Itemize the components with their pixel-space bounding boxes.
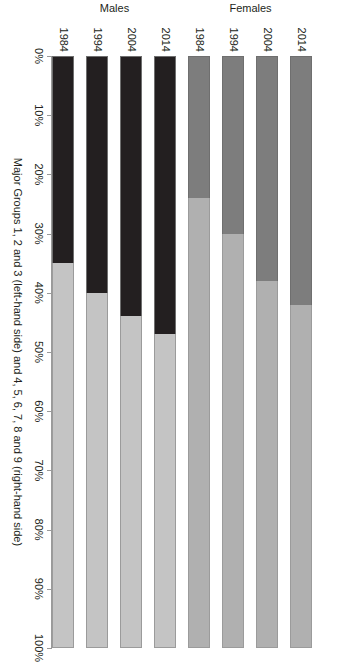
x-axis-tick-label: 90% <box>32 566 45 612</box>
bar-segment-left <box>154 56 176 334</box>
x-axis-tick-label: 20% <box>32 151 45 197</box>
bar-row <box>120 56 142 648</box>
bar-segment-right <box>222 234 244 648</box>
bar-segment-right <box>120 316 142 648</box>
x-axis-tick-label: 10% <box>32 92 45 138</box>
bar-segment-left <box>52 56 74 263</box>
category-label: 2014 <box>295 6 308 52</box>
bar-segment-right <box>86 293 108 648</box>
x-axis-tick-label: 0% <box>32 33 45 79</box>
bar-segment-left <box>222 56 244 234</box>
bar-row <box>256 56 278 648</box>
bar-row <box>154 56 176 648</box>
x-axis-tick-label: 80% <box>32 507 45 553</box>
group-label: Males <box>85 2 145 15</box>
x-axis-tick-label: 70% <box>32 447 45 493</box>
bar-segment-left <box>256 56 278 281</box>
bar-segment-left <box>86 56 108 293</box>
bar-row <box>222 56 244 648</box>
category-label: 1984 <box>193 6 206 52</box>
group-label: Females <box>221 2 281 15</box>
bar-segment-right <box>290 305 312 648</box>
x-axis-title: Major Groups 1, 2 and 3 (left-hand side)… <box>11 56 24 648</box>
chart-figure: 0%10%20%30%40%50%60%70%80%90%100%Major G… <box>0 0 338 668</box>
x-axis-tick-label: 50% <box>32 329 45 375</box>
bar-segment-right <box>188 198 210 648</box>
x-axis-tick <box>47 648 52 649</box>
x-axis-tick-label: 30% <box>32 211 45 257</box>
category-label: 2014 <box>159 6 172 52</box>
bar-row <box>290 56 312 648</box>
plot-area: 0%10%20%30%40%50%60%70%80%90%100%Major G… <box>0 0 338 668</box>
bar-segment-right <box>154 334 176 648</box>
bar-segment-left <box>188 56 210 198</box>
bar-segment-right <box>256 281 278 648</box>
bar-segment-right <box>52 263 74 648</box>
x-axis-tick-label: 60% <box>32 388 45 434</box>
bar-row <box>86 56 108 648</box>
bar-segment-left <box>120 56 142 316</box>
rotated-figure-stage: 0%10%20%30%40%50%60%70%80%90%100%Major G… <box>0 0 338 668</box>
x-axis-tick-label: 100% <box>32 625 45 668</box>
bar-row <box>188 56 210 648</box>
bar-row <box>52 56 74 648</box>
category-label: 1984 <box>57 6 70 52</box>
bar-segment-left <box>290 56 312 305</box>
x-axis-tick-label: 40% <box>32 270 45 316</box>
